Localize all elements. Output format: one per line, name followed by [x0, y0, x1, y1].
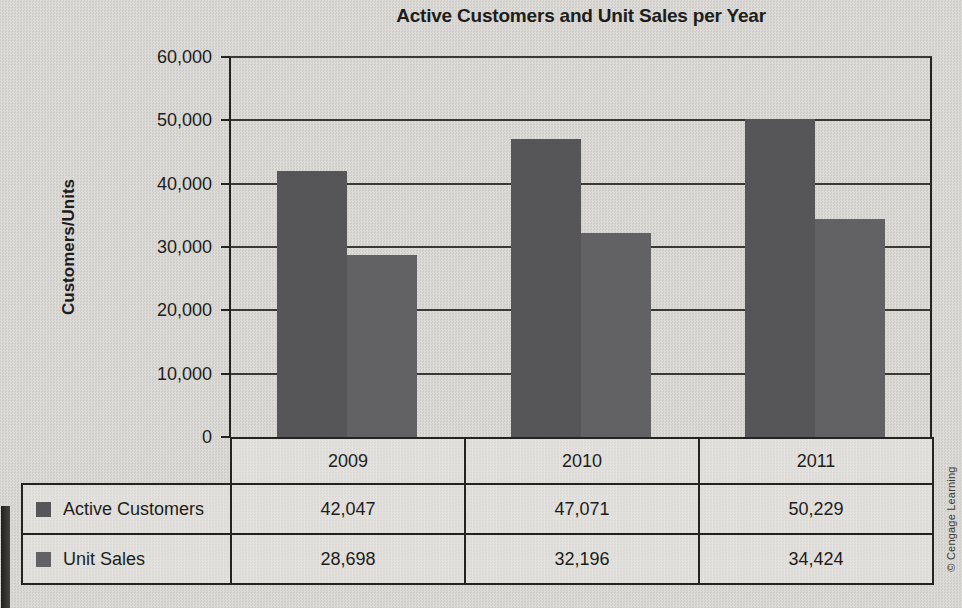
- value-cell: 47,071: [465, 484, 699, 534]
- plot-right-border: [930, 57, 932, 437]
- bar-2011-unit-sales: [815, 219, 885, 437]
- gridline: [230, 119, 932, 121]
- unit-sales-row: Unit Sales 28,698 32,196 34,424: [22, 534, 933, 584]
- value-cell: 34,424: [699, 534, 933, 584]
- y-tick-label: 20,000: [102, 298, 212, 322]
- copyright-credit: © Cengage Learning: [944, 449, 958, 589]
- figure-page: Active Customers and Unit Sales per Year…: [0, 0, 962, 608]
- y-axis-line: [229, 57, 231, 437]
- y-tick-label: 60,000: [102, 45, 212, 69]
- legend-cell: Unit Sales: [22, 534, 231, 584]
- y-tick-label: 10,000: [102, 362, 212, 386]
- legend-swatch-unit-sales: [36, 552, 51, 567]
- value-cell: 32,196: [465, 534, 699, 584]
- year-cell: 2009: [231, 438, 465, 484]
- bar-2010-active-customers: [511, 139, 581, 437]
- value-cell: 50,229: [699, 484, 933, 534]
- bar-2009-unit-sales: [347, 255, 417, 437]
- legend-swatch-active-customers: [36, 502, 51, 517]
- y-tick-label: 30,000: [102, 235, 212, 259]
- gridline: [230, 56, 932, 58]
- bar-2010-unit-sales: [581, 233, 651, 437]
- scan-edge-mark: [1, 506, 10, 608]
- active-customers-row: Active Customers 42,047 47,071 50,229: [22, 484, 933, 534]
- table-corner-cell: [22, 438, 231, 484]
- y-tick-label: 40,000: [102, 172, 212, 196]
- year-cell: 2011: [699, 438, 933, 484]
- bar-2009-active-customers: [277, 171, 347, 437]
- bar-2011-active-customers: [745, 119, 815, 437]
- value-cell: 42,047: [231, 484, 465, 534]
- legend-cell: Active Customers: [22, 484, 231, 534]
- value-cell: 28,698: [231, 534, 465, 584]
- year-cell: 2010: [465, 438, 699, 484]
- data-table: 2009 2010 2011 Active Customers 42,047 4…: [21, 437, 934, 585]
- legend-label: Active Customers: [63, 499, 204, 519]
- y-tick-label: 50,000: [102, 108, 212, 132]
- legend-label: Unit Sales: [63, 549, 145, 569]
- year-row: 2009 2010 2011: [22, 438, 933, 484]
